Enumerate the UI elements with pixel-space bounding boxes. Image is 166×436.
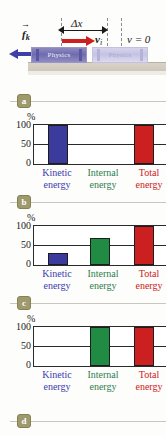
- chart-c-plot-area: 100 50 0: [33, 326, 166, 367]
- panel-marker-b: b: [0, 195, 166, 209]
- chart-b-bar-kinetic: [48, 253, 68, 265]
- book-ghost-title: Physics: [109, 51, 132, 59]
- friction-vector-symbol: f: [22, 28, 26, 40]
- chart-c-xlabel-internal-l1: Internal: [87, 369, 118, 380]
- book-edge-right: [79, 49, 82, 61]
- chart-b-xlabel-kinetic-l2: energy: [33, 280, 81, 292]
- panel-marker-a: a: [0, 94, 166, 108]
- chart-c-xlabel-internal-l2: energy: [79, 381, 127, 393]
- initial-velocity-label: vi: [95, 33, 102, 47]
- book-ghost-edge-left: [97, 49, 100, 61]
- dash-guide-right: [121, 18, 122, 46]
- chart-b-xlabel-total-l1: Total: [139, 268, 159, 279]
- chart-c-xlabel-total: Total energy: [125, 369, 166, 393]
- energy-bar-chart-c: % 100 50 0 Kinetic energy Internal energ…: [0, 312, 166, 398]
- chart-c-xlabel-kinetic-l1: Kinetic: [42, 369, 71, 380]
- chart-a-ytick-50: 50: [21, 139, 31, 149]
- chart-c-xlabel-kinetic: Kinetic energy: [33, 369, 81, 393]
- panel-chip-a: a: [17, 94, 31, 108]
- chart-a-xlabel-internal-l1: Internal: [87, 167, 118, 178]
- chart-b-xlabel-total: Total energy: [125, 268, 166, 292]
- chart-b-plot-area: 100 50 0: [33, 225, 166, 266]
- chart-b-xlabel-internal: Internal energy: [79, 268, 127, 292]
- chart-c-xlabel-total-l1: Total: [139, 369, 159, 380]
- chart-a-plot-area: 100 50 0: [33, 124, 166, 165]
- book-current-position: Physics: [31, 47, 87, 63]
- book-ghost-edge-right: [140, 49, 143, 61]
- chart-c-ytick-0: 0: [26, 360, 31, 370]
- final-velocity-label: v = 0: [127, 33, 150, 45]
- panel-marker-c: c: [0, 296, 166, 310]
- panel-chip-c: c: [17, 296, 31, 310]
- displacement-label: Δx: [71, 17, 82, 29]
- chart-a-bar-total: [134, 125, 154, 164]
- chart-b-bar-internal: [90, 238, 110, 265]
- chart-a-xlabel-kinetic: Kinetic energy: [33, 167, 81, 191]
- chart-b-xlabel-kinetic-l1: Kinetic: [42, 268, 71, 279]
- ground-shadow: [28, 71, 166, 75]
- panel-chip-d: d: [17, 414, 31, 428]
- velocity-vector-symbol: v: [95, 33, 100, 45]
- panel-rule-d: [10, 421, 166, 422]
- chart-c-xlabel-kinetic-l2: energy: [33, 381, 81, 393]
- book-final-position: Physics: [92, 47, 148, 63]
- chart-b-xlabels: Kinetic energy Internal energy Total ene…: [33, 268, 166, 296]
- velocity-arrow-head-icon: [86, 36, 95, 46]
- chart-b-xlabel-internal-l1: Internal: [87, 268, 118, 279]
- panel-marker-d: d: [0, 414, 166, 428]
- panel-rule-a: [10, 101, 166, 102]
- chart-a-xlabel-total-l1: Total: [139, 167, 159, 178]
- chart-a-ytick-100: 100: [16, 120, 31, 130]
- chart-c-bar-internal: [90, 327, 110, 366]
- chart-a-xlabel-total: Total energy: [125, 167, 166, 191]
- chart-c-ytick-50: 50: [21, 341, 31, 351]
- chart-b-ytick-50: 50: [21, 240, 31, 250]
- chart-a-bar-kinetic: [48, 125, 68, 164]
- friction-arrow-head-icon: [9, 49, 18, 59]
- panel-rule-b: [10, 202, 166, 203]
- panel-chip-b: b: [17, 195, 31, 209]
- displacement-arrow-head-left-icon: [58, 26, 64, 34]
- chart-b-xlabel-internal-l2: energy: [79, 280, 127, 292]
- chart-c-bar-total: [134, 327, 154, 366]
- chart-a-xlabel-total-l2: energy: [125, 179, 166, 191]
- energy-bar-chart-b: % 100 50 0 Kinetic energy Internal energ…: [0, 211, 166, 297]
- book-title: Physics: [48, 51, 71, 59]
- chart-b-xlabel-total-l2: energy: [125, 280, 166, 292]
- panel-rule-c: [10, 303, 166, 304]
- chart-a-xlabel-internal-l2: energy: [79, 179, 127, 191]
- book-edge-left: [36, 49, 39, 61]
- velocity-arrow-shaft: [62, 39, 88, 43]
- chart-a-xlabel-kinetic-l1: Kinetic: [42, 167, 71, 178]
- chart-c-xlabel-internal: Internal energy: [79, 369, 127, 393]
- chart-a-ytick-0: 0: [26, 158, 31, 168]
- chart-b-ytick-0: 0: [26, 259, 31, 269]
- chart-c-xlabels: Kinetic energy Internal energy Total ene…: [33, 369, 166, 397]
- physics-diagram: Δx vi v = 0 fk Physics Physics: [0, 0, 166, 92]
- energy-bar-chart-a: % 100 50 0 Kinetic energy Internal energ…: [0, 110, 166, 196]
- chart-a-xlabel-internal: Internal energy: [79, 167, 127, 191]
- chart-b-xlabel-kinetic: Kinetic energy: [33, 268, 81, 292]
- chart-b-ytick-100: 100: [16, 221, 31, 231]
- chart-a-xlabel-kinetic-l2: energy: [33, 179, 81, 191]
- chart-c-xlabel-total-l2: energy: [125, 381, 166, 393]
- chart-a-xlabels: Kinetic energy Internal energy Total ene…: [33, 167, 166, 195]
- friction-subscript: k: [26, 33, 30, 42]
- chart-c-ytick-100: 100: [16, 322, 31, 332]
- velocity-subscript: i: [100, 38, 102, 47]
- chart-b-bar-total: [134, 226, 154, 265]
- friction-force-label: fk: [22, 28, 30, 42]
